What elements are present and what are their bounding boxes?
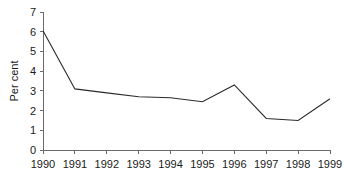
x-axis-tick-label: 1995 [190,158,214,170]
x-axis: 1990199119921993199419951996199719981999 [31,150,342,170]
x-axis-tick-label: 1994 [158,158,182,170]
x-axis-tick-label: 1992 [95,158,119,170]
y-axis-tick-label: 5 [30,45,36,57]
x-axis-tick-label: 1998 [286,158,310,170]
x-axis-tick-label: 1991 [63,158,87,170]
y-axis-tick-label: 3 [30,85,36,97]
x-axis-tick-label: 1999 [318,158,342,170]
data-series-line [43,31,330,121]
y-axis-tick-labels: 01234567 [30,6,36,156]
y-axis-tick-label: 6 [30,26,36,38]
y-axis-tick-label: 2 [30,105,36,117]
y-axis-tick-label: 0 [30,144,36,156]
x-axis-tick-label: 1993 [126,158,150,170]
chart-canvas: 01234567 1990199119921993199419951996199… [0,0,344,177]
y-axis-tick-label: 7 [30,6,36,18]
x-axis-tick-label: 1997 [254,158,278,170]
x-axis-tick-label: 1996 [222,158,246,170]
y-axis: 01234567 [30,6,43,156]
y-axis-tick-label: 1 [30,124,36,136]
x-axis-ticks [43,150,330,154]
y-axis-tick-label: 4 [30,65,36,77]
x-axis-tick-label: 1990 [31,158,55,170]
line-chart: 01234567 1990199119921993199419951996199… [0,0,344,177]
x-axis-tick-labels: 1990199119921993199419951996199719981999 [31,158,342,170]
y-axis-title: Per cent [8,61,20,102]
